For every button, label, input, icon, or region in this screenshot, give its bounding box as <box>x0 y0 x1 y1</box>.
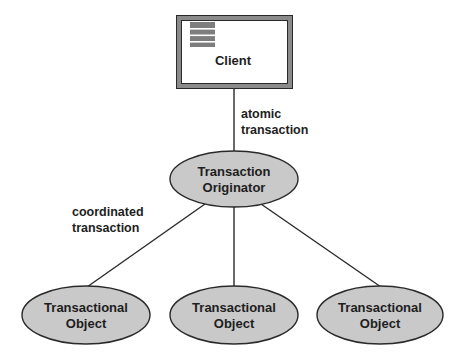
object-label-line2: Object <box>360 316 401 331</box>
object-label-line2: Object <box>214 316 255 331</box>
originator-node: Transaction Originator <box>170 151 298 207</box>
client-node: Client <box>177 16 293 89</box>
object-ellipse <box>317 286 443 344</box>
transaction-diagram: Client atomic transaction coordinated tr… <box>0 0 468 360</box>
client-label: Client <box>215 53 252 68</box>
edge-label-atomic: atomic transaction <box>241 107 308 137</box>
edge-label-coordinated-line1: coordinated <box>72 205 144 219</box>
edge-label-coordinated: coordinated transaction <box>72 205 144 235</box>
object-node-left: Transactional Object <box>22 286 150 344</box>
object-label-line1: Transactional <box>338 300 422 315</box>
edge-label-coordinated-line2: transaction <box>72 221 139 235</box>
originator-label-line2: Originator <box>203 180 266 195</box>
object-label-line2: Object <box>66 316 107 331</box>
object-ellipse <box>170 286 298 344</box>
edge-label-atomic-line1: atomic <box>241 107 281 121</box>
originator-ellipse <box>170 151 298 207</box>
object-label-line1: Transactional <box>192 300 276 315</box>
object-ellipse <box>22 286 150 344</box>
edge-originator-object-right <box>261 204 381 287</box>
window-menu-icon <box>190 22 215 47</box>
originator-label-line1: Transaction <box>198 164 271 179</box>
object-node-middle: Transactional Object <box>170 286 298 344</box>
object-node-right: Transactional Object <box>317 286 443 344</box>
object-label-line1: Transactional <box>44 300 128 315</box>
edge-label-atomic-line2: transaction <box>241 123 308 137</box>
